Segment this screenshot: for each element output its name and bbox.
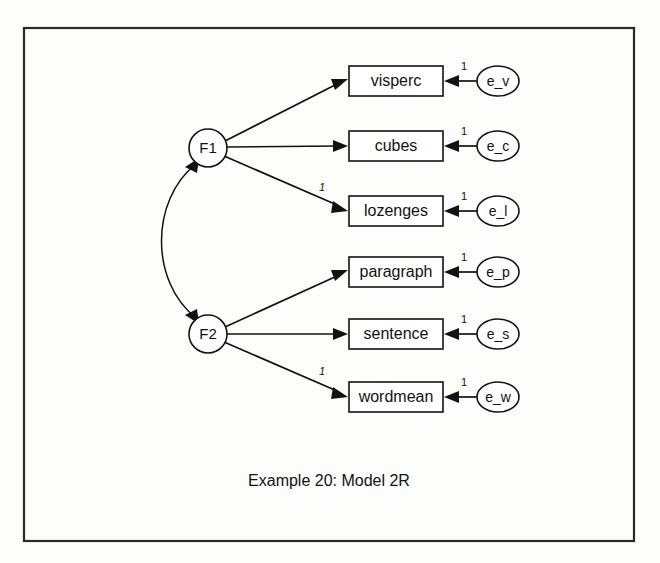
observed-variable-wordmean[interactable]: wordmean [349,382,443,412]
arrowhead-icon [444,391,459,403]
error-path-e_v [444,75,477,87]
error-coefficient-label: 1 [461,190,467,202]
arrowhead-icon [333,140,348,152]
arrowhead-icon [331,201,348,213]
error-term-e_w[interactable]: e_w [477,382,519,412]
observed-variable-label: sentence [364,325,429,342]
error-term-e_p[interactable]: e_p [477,257,519,287]
arrowhead-icon [444,205,459,217]
error-term-label: e_w [485,389,512,405]
error-term-label: e_p [486,264,510,280]
error-coefficient-label: 1 [461,251,467,263]
latent-factor-f1[interactable]: F1 [189,129,227,167]
loading-f1-visperc [225,79,348,141]
fixed-loading-label: 1 [319,181,325,193]
arrowhead-icon [333,328,348,340]
sem-path-diagram: visperc cubes lozenges paragraph sentenc… [0,0,660,563]
error-term-e_l[interactable]: e_l [477,196,519,226]
latent-factor-label: F2 [199,325,217,342]
arrowhead-icon [444,328,459,340]
observed-variable-lozenges[interactable]: lozenges [349,196,443,226]
latent-factor-f2[interactable]: F2 [189,315,227,353]
error-path-e_p [444,266,477,278]
arrowhead-icon [444,266,459,278]
error-coefficient-label: 1 [461,60,467,72]
error-term-label: e_c [487,138,510,154]
figure-caption: Example 20: Model 2R [248,472,410,489]
fixed-loading-label: 1 [319,365,325,377]
arrowhead-icon [331,79,348,90]
arrowhead-icon [331,387,348,399]
arrowhead-icon [444,75,459,87]
error-path-e_l [444,205,477,217]
error-term-e_c[interactable]: e_c [477,131,519,161]
error-term-label: e_v [487,73,510,89]
observed-variable-label: wordmean [358,388,434,405]
diagram-page: visperc cubes lozenges paragraph sentenc… [0,0,660,563]
covariance-f1-f2 [162,158,200,324]
error-term-e_v[interactable]: e_v [477,66,519,96]
observed-variable-label: paragraph [360,263,433,280]
latent-factor-label: F1 [199,139,217,156]
loading-f2-sentence [227,328,348,340]
error-coefficient-label: 1 [461,376,467,388]
observed-variable-paragraph[interactable]: paragraph [349,257,443,287]
observed-variable-cubes[interactable]: cubes [349,131,443,161]
error-path-e_s [444,328,477,340]
error-coefficient-label: 1 [461,125,467,137]
error-term-label: e_s [487,326,510,342]
loading-f1-cubes [227,140,348,152]
loading-f1-lozenges [224,156,348,213]
error-coefficient-label: 1 [461,313,467,325]
error-term-e_s[interactable]: e_s [477,319,519,349]
loading-f2-wordmean [224,342,348,399]
observed-variable-label: visperc [371,72,422,89]
observed-variable-label: cubes [375,137,418,154]
diagram-frame [24,28,634,541]
observed-variable-visperc[interactable]: visperc [349,66,443,96]
error-term-label: e_l [489,203,508,219]
observed-variable-sentence[interactable]: sentence [349,319,443,349]
error-path-e_c [444,140,477,152]
observed-variable-label: lozenges [364,202,428,219]
arrowhead-icon [331,270,348,281]
arrowhead-icon [444,140,459,152]
error-path-e_w [444,391,477,403]
loading-f2-paragraph [225,270,348,327]
